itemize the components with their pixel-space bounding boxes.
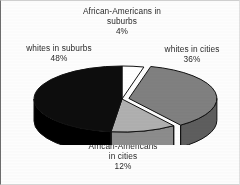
slice-label-line-1: African-Americans in bbox=[83, 6, 161, 16]
pie-slice-top-faces bbox=[34, 66, 217, 132]
slice-label-african-americans-in-cities: African-Americans in cities 12% bbox=[71, 141, 175, 172]
slice-label-african-americans-in-suburbs: African-Americans in suburbs 4% bbox=[63, 6, 181, 37]
slice-label-line-2: suburbs bbox=[107, 16, 137, 26]
slice-label-line-1: whites in cities bbox=[165, 44, 220, 54]
slice-percent-value: 12% bbox=[71, 161, 175, 171]
slice-percent-value: 4% bbox=[63, 26, 181, 36]
slice-label-line-1: whites in suburbs bbox=[26, 43, 91, 53]
pie-chart bbox=[19, 59, 225, 145]
slice-label-line-2: in cities bbox=[109, 151, 137, 161]
pie-chart-svg bbox=[19, 59, 225, 145]
chart-frame: African-Americans in suburbs 4% whites i… bbox=[0, 0, 240, 185]
